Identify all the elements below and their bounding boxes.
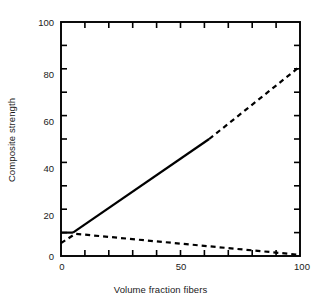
axis-frame [61, 22, 300, 256]
data-series-group [61, 66, 300, 254]
plot-area [0, 0, 321, 307]
series-line [73, 139, 209, 233]
axis-ticks [61, 22, 300, 256]
series-line [209, 66, 300, 139]
chart-figure: Composite strength Volume fraction fiber… [0, 0, 321, 307]
